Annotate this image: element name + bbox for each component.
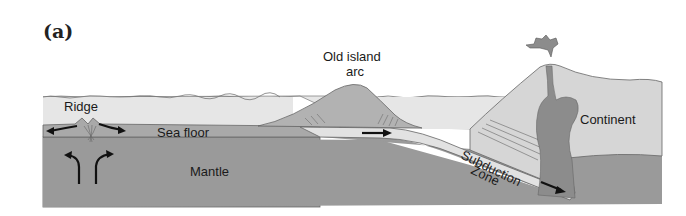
label-old-island-arc-2: arc [346,64,365,79]
subduction-diagram: Ridge Sea floor Mantle Old island arc Co… [0,0,686,216]
eruption-cloud [526,35,558,57]
label-continent: Continent [580,112,636,127]
label-sea-floor: Sea floor [157,125,210,140]
label-ridge: Ridge [64,99,98,114]
label-old-island-arc-1: Old island [323,49,381,64]
label-mantle: Mantle [190,164,229,179]
